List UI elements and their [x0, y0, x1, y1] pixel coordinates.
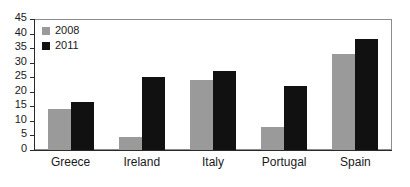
legend-label: 2008 [55, 25, 79, 36]
bar-portugal-2011 [284, 86, 307, 150]
y-tick-label: 15 [15, 99, 27, 110]
bar-ireland-2011 [142, 77, 165, 150]
y-tick-mark [30, 48, 34, 49]
bar-group [261, 19, 307, 150]
y-tick-mark [30, 92, 34, 93]
y-tick-mark [30, 63, 34, 64]
x-axis-label-ireland: Ireland [106, 155, 177, 169]
y-tick-label: 30 [15, 56, 27, 67]
y-tick-mark [30, 135, 34, 136]
x-axis-label-portugal: Portugal [249, 155, 320, 169]
x-axis-label-spain: Spain [320, 155, 391, 169]
bar-spain-2011 [355, 39, 378, 150]
y-tick-label: 35 [15, 41, 27, 52]
y-tick-mark [30, 121, 34, 122]
y-tick-label: 45 [15, 12, 27, 23]
bar-group [190, 19, 236, 150]
bar-greece-2011 [71, 102, 94, 150]
bar-greece-2008 [48, 109, 71, 150]
bar-group [119, 19, 165, 150]
legend-swatch-icon-2011 [42, 42, 50, 50]
y-tick-mark [30, 77, 34, 78]
legend-label: 2011 [55, 40, 79, 51]
y-tick-label: 5 [21, 128, 27, 139]
bar-group [332, 19, 378, 150]
legend-item-2008: 2008 [42, 24, 79, 37]
y-tick-label: 0 [21, 143, 27, 154]
legend-swatch-icon-2008 [42, 27, 50, 35]
x-axis-label-greece: Greece [35, 155, 106, 169]
y-tick-mark [30, 150, 34, 151]
legend-item-2011: 2011 [42, 39, 79, 52]
bar-italy-2011 [213, 71, 236, 150]
bar-spain-2008 [332, 54, 355, 150]
x-axis-line [34, 150, 392, 151]
legend: 20082011 [42, 24, 79, 54]
x-axis-label-italy: Italy [177, 155, 248, 169]
bar-chart: 051015202530354045 GreeceIrelandItalyPor… [0, 0, 410, 187]
bars-layer [35, 19, 391, 150]
y-tick-label: 25 [15, 70, 27, 81]
y-tick-label: 20 [15, 85, 27, 96]
y-tick-mark [30, 34, 34, 35]
y-tick-mark [30, 19, 34, 20]
y-tick-mark [30, 106, 34, 107]
bar-ireland-2008 [119, 137, 142, 150]
bar-italy-2008 [190, 80, 213, 150]
y-tick-label: 40 [15, 27, 27, 38]
y-tick-label: 10 [15, 114, 27, 125]
bar-portugal-2008 [261, 127, 284, 150]
